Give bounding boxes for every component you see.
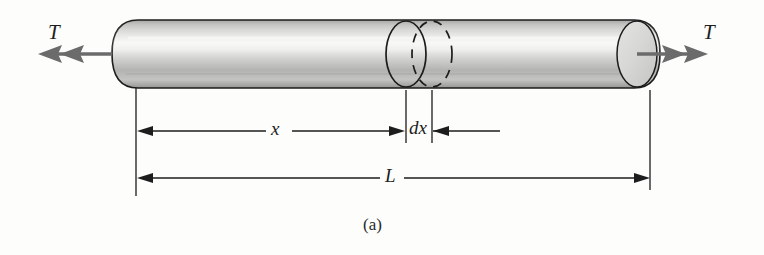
dimension-dx-arrowhead-left — [433, 126, 449, 136]
dimension-label-dx: dx — [409, 118, 427, 137]
torsion-diagram-svg — [0, 0, 764, 255]
dimension-L-arrowhead-left — [137, 173, 153, 183]
figure-caption: (a) — [363, 216, 382, 233]
dimension-L-arrowhead-right — [634, 173, 650, 183]
dimension-label-L: L — [385, 166, 396, 185]
dimension-x-arrowhead-left — [137, 126, 153, 136]
dimension-dx — [433, 126, 500, 136]
torque-arrow-left — [38, 45, 112, 63]
torque-label-left: T — [48, 22, 60, 43]
dimension-x-arrowhead-right — [389, 126, 405, 136]
torsion-figure: T T x dx L (a) — [0, 0, 764, 255]
dimension-label-x: x — [271, 119, 279, 138]
torque-label-right: T — [703, 22, 715, 43]
